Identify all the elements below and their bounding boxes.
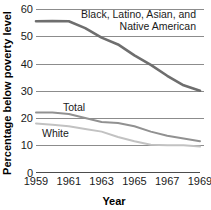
total-series-label-line-0: Total — [63, 101, 85, 113]
y-axis-title: Percentage below poverty level — [1, 11, 13, 175]
total-series-label: Total — [63, 101, 85, 113]
y-tick-label-30: 30 — [21, 85, 33, 97]
y-tick-label-40: 40 — [21, 58, 33, 70]
chart-canvas: 0102030405060 195919611963196519671969 B… — [0, 0, 211, 210]
x-tick-label-1967: 1967 — [155, 175, 179, 187]
white-series-label-line-0: White — [42, 127, 69, 139]
x-tick-label-1959: 1959 — [24, 175, 48, 187]
minority-series-label-line-1: Native American — [120, 20, 197, 32]
minority-series-label-line-0: Black, Latino, Asian, and — [81, 8, 196, 20]
y-tick-label-60: 60 — [21, 3, 33, 15]
y-tick-label-20: 20 — [21, 112, 33, 124]
x-tick-label-1969: 1969 — [188, 175, 211, 187]
y-tick-label-10: 10 — [21, 139, 33, 151]
poverty-level-line-chart: 0102030405060 195919611963196519671969 B… — [0, 0, 211, 210]
x-tick-label-1965: 1965 — [122, 175, 146, 187]
white-series-label: White — [42, 127, 69, 139]
x-tick-label-1963: 1963 — [89, 175, 113, 187]
x-tick-label-1961: 1961 — [57, 175, 81, 187]
x-axis-title: Year — [102, 195, 126, 207]
y-tick-label-50: 50 — [21, 30, 33, 42]
